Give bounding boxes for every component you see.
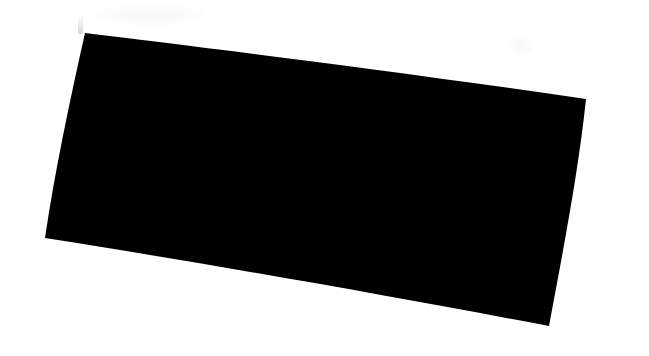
occlusion-layer: [0, 0, 649, 356]
redaction-block-shape: [45, 33, 586, 326]
screenshot-canvas: [0, 0, 649, 356]
